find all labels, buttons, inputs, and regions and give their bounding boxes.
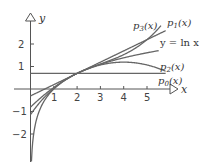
axes (14, 13, 178, 162)
label-p2: p2(x) (160, 61, 184, 74)
label-p1: p1(x) (167, 17, 191, 30)
x-tick-label-5: 5 (144, 92, 150, 103)
x-tick-label-1: 1 (51, 92, 57, 103)
svg-text:y = ln x: y = ln x (159, 37, 199, 48)
x-tick-label-2: 2 (74, 92, 80, 103)
chart: 1 2 3 4 5 2 1 −1 −2 x y p3(x) p1(x) y = … (0, 0, 199, 164)
y-tick-label-neg2: −2 (12, 129, 27, 140)
x-tick-label-3: 3 (97, 92, 103, 103)
svg-text:p1(x): p1(x) (167, 17, 191, 30)
curve-y-ln-x (31, 51, 158, 162)
y-tick-label-1: 1 (18, 61, 24, 72)
svg-text:p2(x): p2(x) (160, 61, 184, 74)
y-tick-label-2: 2 (18, 39, 24, 50)
y-axis-arrow-icon (26, 13, 36, 21)
label-ln: y = ln x (159, 37, 199, 48)
y-axis-label: y (38, 12, 46, 25)
x-tick-label-4: 4 (121, 92, 127, 103)
svg-text:p3(x): p3(x) (133, 20, 157, 33)
y-tick-label-neg1: −1 (12, 106, 27, 117)
label-p3: p3(x) (133, 20, 157, 33)
